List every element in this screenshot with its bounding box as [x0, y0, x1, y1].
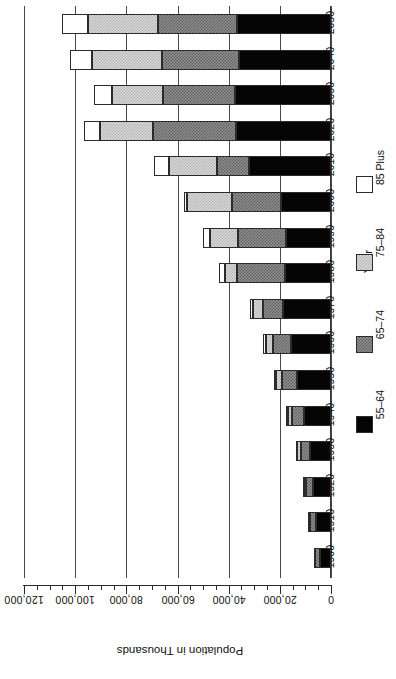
bar-segment-75-84[interactable] [225, 263, 237, 283]
bar-row[interactable] [0, 85, 396, 105]
bar-segment-65-74[interactable] [232, 192, 281, 212]
bar-segment-55-64[interactable] [320, 548, 331, 568]
bar-segment-75-84[interactable] [112, 85, 163, 105]
bar-segment-55-64[interactable] [291, 334, 331, 354]
bar-segment-75-84[interactable] [266, 334, 273, 354]
value-tick-label: 120,000 [0, 594, 52, 606]
bar-segment-85-plus[interactable] [84, 121, 101, 141]
legend: 85 Plus75–8465–7455–64 [352, 150, 396, 510]
value-axis-title: Population in Thousands [70, 645, 290, 657]
axis-tick-minor [50, 585, 51, 590]
bar-segment-85-plus[interactable] [70, 50, 92, 70]
bar-segment-65-74[interactable] [217, 156, 249, 176]
bar-segment-75-84[interactable] [210, 228, 238, 248]
bar-row[interactable] [0, 370, 396, 390]
axis-tick-minor [37, 585, 38, 590]
bar-row[interactable] [0, 548, 396, 568]
axis-tick-minor [165, 585, 166, 590]
axis-tick-minor [62, 585, 63, 590]
value-tick-label: 60,000 [150, 594, 206, 606]
bar-segment-55-64[interactable] [281, 192, 331, 212]
bar-row[interactable] [0, 441, 396, 461]
bar-row[interactable] [0, 121, 396, 141]
axis-tick-minor [216, 585, 217, 590]
bar-segment-75-84[interactable] [253, 299, 263, 319]
bar-segment-85-plus[interactable] [94, 85, 112, 105]
bar-segment-65-74[interactable] [292, 406, 304, 426]
axis-tick-minor [293, 585, 294, 590]
value-tick-label: 20,000 [252, 594, 308, 606]
chart-area: 020,00040,00060,00080,000100,000120,000 … [0, 0, 396, 679]
bar-segment-65-74[interactable] [162, 50, 239, 70]
bar-segment-75-84[interactable] [169, 156, 216, 176]
axis-tick-minor [101, 585, 102, 590]
axis-tick-minor [203, 585, 204, 590]
bar-segment-85-plus[interactable] [203, 228, 210, 248]
axis-tick-major [280, 585, 281, 594]
bar-segment-75-84[interactable] [100, 121, 152, 141]
axis-tick-minor [114, 585, 115, 590]
bar-segment-55-64[interactable] [237, 14, 331, 34]
legend-swatch [356, 254, 373, 271]
axis-tick-minor [190, 585, 191, 590]
axis-tick-minor [318, 585, 319, 590]
bar-segment-55-64[interactable] [316, 512, 331, 532]
bar-segment-55-64[interactable] [236, 121, 331, 141]
bar-row[interactable] [0, 50, 396, 70]
axis-tick-major [331, 585, 332, 594]
bar-row[interactable] [0, 156, 396, 176]
bar-segment-55-64[interactable] [285, 263, 331, 283]
bar-row[interactable] [0, 512, 396, 532]
bar-segment-65-74[interactable] [263, 299, 283, 319]
bar-segment-55-64[interactable] [310, 441, 331, 461]
bar-series-container [0, 0, 396, 579]
bar-segment-85-plus[interactable] [154, 156, 169, 176]
legend-label: 75–84 [374, 228, 386, 257]
bar-segment-55-64[interactable] [313, 477, 331, 497]
bar-segment-55-64[interactable] [297, 370, 331, 390]
axis-tick-minor [139, 585, 140, 590]
bar-segment-65-74[interactable] [153, 121, 236, 141]
bar-row[interactable] [0, 192, 396, 212]
bar-row[interactable] [0, 263, 396, 283]
bar-segment-55-64[interactable] [283, 299, 331, 319]
value-tick-label: 100,000 [47, 594, 103, 606]
axis-tick-major [75, 585, 76, 594]
value-tick-label: 0 [303, 594, 359, 606]
bar-row[interactable] [0, 334, 396, 354]
value-tick-label: 40,000 [201, 594, 257, 606]
bar-segment-65-74[interactable] [282, 370, 297, 390]
bar-segment-65-74[interactable] [158, 14, 237, 34]
bar-row[interactable] [0, 299, 396, 319]
bar-segment-65-74[interactable] [237, 263, 285, 283]
bar-segment-55-64[interactable] [286, 228, 331, 248]
bar-segment-75-84[interactable] [187, 192, 232, 212]
bar-segment-55-64[interactable] [249, 156, 331, 176]
bar-row[interactable] [0, 228, 396, 248]
axis-tick-major [178, 585, 179, 594]
axis-tick-minor [152, 585, 153, 590]
bar-segment-65-74[interactable] [301, 441, 310, 461]
bar-segment-55-64[interactable] [304, 406, 331, 426]
bar-segment-65-74[interactable] [238, 228, 286, 248]
bar-segment-55-64[interactable] [239, 50, 331, 70]
axis-tick-major [126, 585, 127, 594]
bar-row[interactable] [0, 14, 396, 34]
value-tick-label: 80,000 [98, 594, 154, 606]
bar-segment-65-74[interactable] [273, 334, 291, 354]
legend-swatch [356, 176, 373, 193]
bar-segment-55-64[interactable] [235, 85, 331, 105]
axis-tick-major [229, 585, 230, 594]
bar-segment-85-plus[interactable] [62, 14, 88, 34]
axis-tick-minor [254, 585, 255, 590]
bar-segment-65-74[interactable] [163, 85, 235, 105]
bar-segment-65-74[interactable] [306, 477, 313, 497]
legend-swatch [356, 416, 373, 433]
bar-segment-75-84[interactable] [88, 14, 158, 34]
axis-tick-minor [241, 585, 242, 590]
axis-tick-minor [305, 585, 306, 590]
bar-segment-75-84[interactable] [92, 50, 162, 70]
bar-row[interactable] [0, 406, 396, 426]
bar-row[interactable] [0, 477, 396, 497]
axis-tick-minor [88, 585, 89, 590]
